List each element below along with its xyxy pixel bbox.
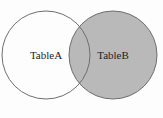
venn-diagram: TableA TableB <box>0 0 163 118</box>
label-table-b: TableB <box>97 49 129 61</box>
label-table-a: TableA <box>30 49 62 61</box>
